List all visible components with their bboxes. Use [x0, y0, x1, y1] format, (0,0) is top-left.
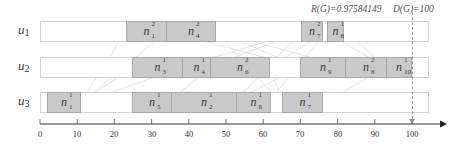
- x-tick-80: 80: [334, 129, 343, 139]
- x-tick-20: 20: [110, 129, 119, 139]
- x-tick-100: 100: [406, 129, 419, 139]
- x-tick-40: 40: [185, 129, 194, 139]
- x-tick-90: 90: [371, 129, 380, 139]
- x-tick-30: 30: [148, 129, 157, 139]
- x-tick-50: 50: [222, 129, 231, 139]
- x-tick-0: 0: [38, 129, 42, 139]
- gantt-chart: R(G)=0.97584149 D(G)=100 u1 u2 u3 n21 n2…: [0, 0, 451, 148]
- x-axis: [0, 0, 451, 148]
- x-tick-10: 10: [73, 129, 82, 139]
- x-tick-60: 60: [259, 129, 268, 139]
- x-tick-70: 70: [296, 129, 305, 139]
